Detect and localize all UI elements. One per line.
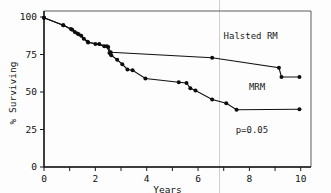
x-axis: 0246810	[41, 167, 307, 184]
data-point	[193, 89, 197, 93]
annotation-layer: Halsted RMMRMp=0.05	[224, 31, 279, 136]
data-point	[177, 80, 181, 84]
data-point	[115, 58, 119, 62]
halsted-label: Halsted RM	[224, 31, 279, 41]
y-tick-label-50: 50	[26, 86, 38, 97]
data-point	[109, 53, 113, 57]
y-tick-label-75: 75	[26, 49, 37, 60]
data-point	[131, 68, 135, 72]
y-axis-title: % Surviving	[7, 62, 18, 125]
data-point	[120, 62, 124, 66]
data-point	[77, 32, 81, 36]
data-point	[73, 30, 77, 34]
data-point	[235, 108, 239, 112]
x-tick-label-0: 0	[41, 173, 47, 184]
x-tick-label-8: 8	[247, 173, 253, 184]
x-tick-label-4: 4	[144, 173, 150, 184]
data-point	[125, 68, 129, 72]
data-point	[82, 37, 86, 41]
data-point	[97, 42, 101, 46]
data-point	[61, 23, 65, 27]
x-tick-label-2: 2	[92, 173, 98, 184]
data-point	[69, 27, 73, 31]
data-point	[184, 81, 188, 85]
x-axis-title: Years	[153, 184, 182, 193]
data-point	[86, 41, 90, 45]
data-point	[210, 98, 214, 102]
data-point	[279, 75, 283, 79]
x-tick-label-6: 6	[195, 173, 201, 184]
data-point	[105, 44, 109, 48]
y-tick-label-25: 25	[26, 124, 37, 135]
survival-chart-figure: 0255075100 0246810 Halsted RMMRMp=0.05 Y…	[0, 0, 331, 193]
data-point	[143, 77, 147, 81]
y-tick-label-100: 100	[20, 11, 37, 22]
mrm-label: MRM	[249, 82, 266, 92]
chart-canvas: 0255075100 0246810 Halsted RMMRMp=0.05 Y…	[0, 0, 331, 193]
data-point	[297, 75, 301, 79]
pvalue-label: p=0.05	[236, 125, 269, 135]
data-point	[224, 101, 228, 105]
y-tick-label-0: 0	[31, 161, 37, 172]
series-halsted-rm	[42, 16, 301, 79]
data-point	[188, 86, 192, 90]
y-axis: 0255075100	[20, 11, 44, 172]
data-point	[210, 56, 214, 60]
data-point	[277, 66, 281, 70]
data-point	[42, 16, 46, 20]
x-tick-label-10: 10	[295, 173, 307, 184]
series-line-halsted-rm	[44, 18, 299, 77]
data-point	[297, 107, 301, 111]
